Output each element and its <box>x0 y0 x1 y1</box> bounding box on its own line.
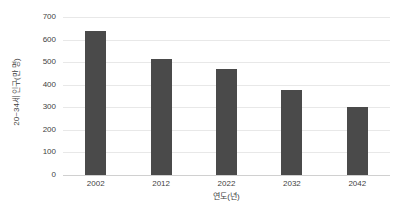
y-axis-tick-label: 200 <box>16 126 56 134</box>
x-axis-tick-label: 2032 <box>262 179 322 188</box>
gridline-0 <box>63 175 390 176</box>
gridline-500 <box>63 62 390 63</box>
bar-2022 <box>216 69 237 175</box>
x-axis-tick-label: 2042 <box>327 179 387 188</box>
bar-2002 <box>85 31 106 175</box>
x-axis-tick-label: 2022 <box>197 179 257 188</box>
plot-area <box>63 17 390 175</box>
y-axis-tick-label: 400 <box>16 81 56 89</box>
bar-2042 <box>347 107 368 175</box>
bar-chart: 20~34세 인구(만 명) 연도(년) 0100200300400500600… <box>0 0 409 212</box>
y-axis-tick-label: 600 <box>16 36 56 44</box>
y-axis-tick-label: 100 <box>16 148 56 156</box>
bar-2012 <box>151 59 172 175</box>
gridline-700 <box>63 17 390 18</box>
y-axis-tick-label: 700 <box>16 13 56 21</box>
x-axis-tick-label: 2002 <box>66 179 126 188</box>
y-axis-tick-label: 0 <box>16 171 56 179</box>
gridline-600 <box>63 40 390 41</box>
x-axis-title: 연도(년) <box>63 192 390 202</box>
y-axis-tick-label: 300 <box>16 103 56 111</box>
x-axis-tick-label: 2012 <box>131 179 191 188</box>
y-axis-tick-label: 500 <box>16 58 56 66</box>
bar-2032 <box>281 90 302 175</box>
